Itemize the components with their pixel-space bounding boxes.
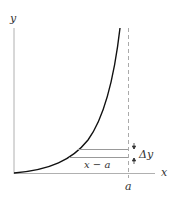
curve — [14, 28, 120, 173]
a-label: a — [125, 180, 132, 193]
interval-label: x − a — [84, 159, 110, 170]
diagram-canvas: y x a x − a Δy — [0, 0, 172, 197]
x-axis-label: x — [161, 166, 168, 179]
delta-y-arrows — [132, 143, 135, 164]
delta-y-label: Δy — [138, 148, 154, 161]
diagram-svg: y x a x − a Δy — [0, 0, 172, 197]
y-axis-label: y — [9, 12, 17, 25]
